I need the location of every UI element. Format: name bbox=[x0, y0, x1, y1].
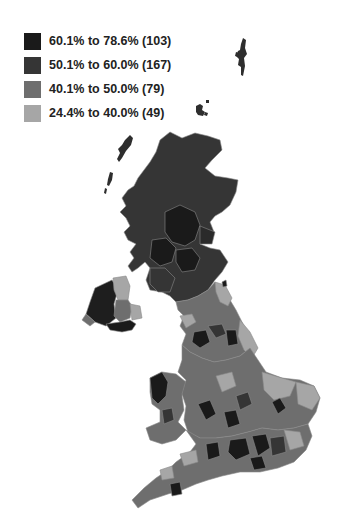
shetland-islands bbox=[235, 38, 247, 76]
region-wales bbox=[146, 372, 186, 444]
region-scotland bbox=[120, 132, 238, 302]
orkney-islands bbox=[196, 100, 209, 116]
region-northern-ireland bbox=[82, 276, 142, 332]
outer-hebrides bbox=[104, 135, 133, 194]
region-midlands-east bbox=[178, 345, 320, 438]
uk-choropleth-map bbox=[0, 0, 344, 526]
